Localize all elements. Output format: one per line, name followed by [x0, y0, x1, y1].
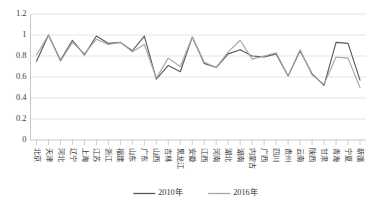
y-axis-tick-label: 0.8: [16, 50, 27, 60]
x-axis-tick-label: 江苏: [92, 148, 101, 162]
y-axis-tick-label: 0.2: [16, 113, 27, 123]
x-axis-tick-label: 江西: [200, 148, 209, 162]
x-axis-tick-label: 新疆: [356, 148, 365, 162]
x-axis-tick-label: 甘肃: [320, 148, 329, 162]
series-line-2016年: [36, 35, 360, 88]
x-axis-tick-labels: 北京天津河北辽宁上海江苏浙江福建山东广东山西吉林黑龙江安徽江西河南湖北湖南内蒙古…: [33, 148, 366, 169]
y-axis-tick-labels: 00.20.40.60.811.2: [16, 8, 27, 144]
legend-label-2010年: 2010年: [158, 187, 182, 197]
x-axis-tick-label: 宁夏: [344, 148, 353, 162]
legend-label-2016年: 2016年: [233, 187, 257, 197]
y-axis-tick-label: 1: [22, 29, 26, 39]
chart-legend: 2010年2016年: [133, 187, 257, 197]
chart-canvas: 00.20.40.60.811.2 北京天津河北辽宁上海江苏浙江福建山东广东山西…: [0, 0, 374, 210]
x-axis-tick-label: 天津: [45, 148, 54, 162]
x-axis-tick-label: 广西: [260, 148, 269, 162]
x-axis-tick-label: 湖北: [224, 148, 233, 162]
x-axis-tick-label: 河南: [212, 148, 221, 162]
x-axis-tick-label: 山东: [128, 148, 137, 162]
x-axis-tick-label: 广东: [140, 148, 149, 162]
x-axis-tick-label: 北京: [33, 148, 42, 162]
x-axis-tick-label: 贵州: [284, 148, 293, 162]
x-axis-tick-label: 安徽: [188, 148, 197, 163]
x-axis-tick-label: 上海: [81, 148, 90, 162]
y-axis-tick-label: 0.6: [16, 71, 27, 81]
x-axis-tick-label: 四川: [272, 148, 281, 162]
x-axis-tick-label: 河北: [57, 148, 66, 162]
x-axis-tick-marks: [36, 140, 360, 145]
line-chart: 00.20.40.60.811.2 北京天津河北辽宁上海江苏浙江福建山东广东山西…: [0, 0, 374, 210]
x-axis-tick-label: 湖南: [236, 148, 245, 162]
data-series: [36, 35, 360, 88]
x-axis-tick-label: 云南: [296, 148, 305, 162]
y-axis-tick-label: 0: [22, 134, 26, 144]
x-axis-tick-label: 陕西: [308, 148, 317, 162]
x-axis-tick-label: 黑龙江: [176, 148, 185, 169]
y-axis-tick-label: 0.4: [16, 92, 27, 102]
series-line-2010年: [36, 35, 360, 85]
x-axis-tick-label: 辽宁: [69, 148, 78, 162]
x-axis-tick-label: 青海: [332, 148, 341, 162]
x-axis-tick-label: 内蒙古: [248, 148, 257, 169]
x-axis-tick-label: 浙江: [104, 148, 113, 162]
x-axis-tick-label: 山西: [152, 148, 161, 162]
x-axis-tick-label: 福建: [116, 148, 125, 162]
x-axis-tick-label: 吉林: [164, 148, 173, 162]
y-axis-tick-label: 1.2: [16, 8, 27, 18]
